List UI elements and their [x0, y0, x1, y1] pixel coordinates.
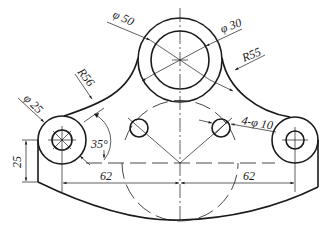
- dim-height25: 25: [10, 140, 38, 182]
- 62-right-label: 62: [243, 169, 255, 183]
- left-boss: [38, 116, 86, 192]
- small-hole-left: [130, 119, 148, 137]
- angle-ref-line: [84, 108, 104, 122]
- r55-arc: [222, 58, 290, 117]
- dim-angle35: 35°: [90, 113, 111, 160]
- radial-line-left: [128, 118, 180, 163]
- dim-4phi10: 4-φ 10: [199, 113, 276, 132]
- r56-label: R56: [74, 64, 98, 89]
- dim-r56: R56: [74, 64, 98, 99]
- dim-r55: R55: [235, 45, 265, 70]
- technical-drawing: φ 50 φ 30 R55 R56 φ 25 4-φ 10 35°: [0, 0, 330, 232]
- height25-label: 25: [10, 156, 24, 168]
- phi50-label: φ 50: [111, 7, 137, 29]
- angle35-label: 35°: [90, 137, 108, 151]
- 62-left-label: 62: [100, 169, 112, 183]
- r55-label: R55: [239, 45, 263, 66]
- outline: [38, 58, 318, 220]
- phi30-label: φ 30: [218, 15, 243, 36]
- r56-arc: [64, 58, 138, 116]
- dim-62-left: 62: [63, 169, 179, 183]
- 4phi10-label: 4-φ 10: [240, 113, 274, 132]
- dim-62-right: 62: [181, 169, 294, 183]
- bottom-arc: [38, 182, 318, 220]
- dim-phi25: φ 25: [18, 91, 90, 165]
- right-boss: [272, 117, 318, 192]
- phi25-label: φ 25: [21, 91, 46, 116]
